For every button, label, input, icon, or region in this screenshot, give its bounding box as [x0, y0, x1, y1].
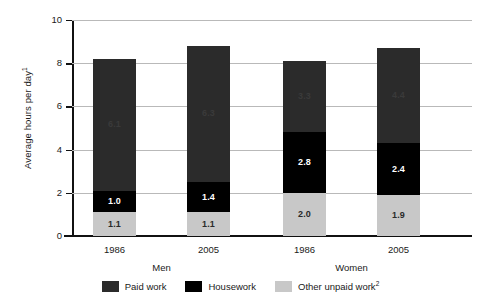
x-axis-label-3: 1986 — [260, 244, 350, 255]
bar-segment-other[interactable]: 1.9 — [377, 195, 420, 236]
y-axis-title-text: Average hours per day — [22, 71, 33, 169]
legend-label-superscript: 2 — [376, 280, 380, 287]
bar-segment-value-label: 3.3 — [298, 92, 311, 101]
x-axis-label-4: 2005 — [354, 244, 444, 255]
y-tick-mark — [66, 63, 72, 64]
bar-segment-value-label: 2.8 — [298, 158, 311, 167]
x-axis-label-2: 2005 — [164, 244, 254, 255]
chart-legend: Paid workHouseworkOther unpaid work2 — [0, 281, 481, 292]
y-tick-label: 6 — [57, 102, 62, 112]
y-tick-label: 2 — [57, 188, 62, 198]
bar-segment-paid[interactable]: 4.4 — [377, 48, 420, 143]
legend-label: Other unpaid work2 — [298, 281, 379, 292]
gridline — [72, 20, 472, 21]
bar-segment-paid[interactable]: 3.3 — [283, 61, 326, 132]
bar-3[interactable]: 3.32.82.0 — [283, 61, 326, 236]
bar-segment-value-label: 1.1 — [202, 220, 215, 229]
y-tick-mark — [66, 20, 72, 21]
bar-segment-value-label: 1.1 — [108, 220, 121, 229]
bar-segment-paid[interactable]: 6.3 — [187, 46, 230, 182]
x-axis-group-label-women: Women — [292, 262, 412, 273]
bar-segment-other[interactable]: 1.1 — [93, 212, 136, 236]
bar-segment-other[interactable]: 2.0 — [283, 193, 326, 236]
y-tick-label: 8 — [57, 58, 62, 68]
y-tick-mark — [66, 106, 72, 107]
legend-label: Paid work — [125, 282, 167, 292]
y-axis-title: Average hours per day1 — [21, 33, 33, 203]
bar-segment-value-label: 1.9 — [392, 211, 405, 220]
bar-segment-house[interactable]: 2.4 — [377, 143, 420, 195]
legend-swatch-icon — [102, 281, 119, 292]
bar-segment-value-label: 1.0 — [108, 197, 121, 206]
legend-item-2[interactable]: Other unpaid work2 — [275, 281, 379, 292]
bar-segment-house[interactable]: 1.4 — [187, 182, 230, 212]
x-axis-group-label-men: Men — [102, 262, 222, 273]
bar-segment-value-label: 6.3 — [202, 109, 215, 118]
stacked-bar-chart: Average hours per day1 0246810 6.11.01.1… — [0, 0, 481, 305]
bar-1[interactable]: 6.11.01.1 — [93, 59, 136, 236]
y-tick-mark — [66, 236, 72, 237]
x-axis-label-1: 1986 — [70, 244, 160, 255]
y-axis-title-superscript: 1 — [21, 67, 28, 71]
bar-segment-value-label: 4.4 — [392, 91, 405, 100]
y-tick-label: 10 — [51, 15, 62, 25]
bar-segment-other[interactable]: 1.1 — [187, 212, 230, 236]
legend-item-0[interactable]: Paid work — [102, 281, 167, 292]
legend-item-1[interactable]: Housework — [185, 281, 256, 292]
bar-segment-house[interactable]: 1.0 — [93, 191, 136, 213]
y-tick-label: 0 — [57, 231, 62, 241]
bar-segment-value-label: 1.4 — [202, 193, 215, 202]
legend-swatch-icon — [185, 281, 202, 292]
legend-label: Housework — [208, 282, 256, 292]
bar-2[interactable]: 6.31.41.1 — [187, 46, 230, 236]
bar-4[interactable]: 4.42.41.9 — [377, 48, 420, 236]
bar-segment-value-label: 6.1 — [108, 120, 121, 129]
y-tick-mark — [66, 150, 72, 151]
bar-segment-paid[interactable]: 6.1 — [93, 59, 136, 191]
plot-area: 0246810 6.11.01.16.31.41.13.32.82.04.42.… — [72, 20, 472, 236]
y-axis-line — [72, 20, 74, 236]
legend-swatch-icon — [275, 281, 292, 292]
bar-segment-house[interactable]: 2.8 — [283, 132, 326, 192]
bar-segment-value-label: 2.4 — [392, 165, 405, 174]
bar-segment-value-label: 2.0 — [298, 210, 311, 219]
y-tick-mark — [66, 193, 72, 194]
y-tick-label: 4 — [57, 145, 62, 155]
